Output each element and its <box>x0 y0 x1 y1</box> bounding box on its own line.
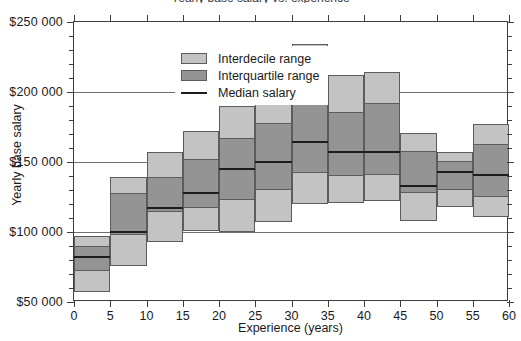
x-tick-top <box>110 300 111 307</box>
median-line <box>255 161 291 163</box>
legend-item-interdecile: Interdecile range <box>181 51 319 66</box>
x-tick-top <box>437 300 438 307</box>
x-tick <box>437 15 438 22</box>
y-tick-minor-right <box>507 190 512 191</box>
y-tick-major <box>67 162 74 163</box>
x-tick <box>473 15 474 22</box>
median-line <box>328 151 364 153</box>
median-line <box>110 231 146 233</box>
x-tick <box>147 15 148 22</box>
x-tick-top <box>400 300 401 307</box>
x-tick <box>110 15 111 22</box>
y-tick-minor-right <box>507 134 512 135</box>
x-tick-top <box>473 300 474 307</box>
median-line <box>183 192 219 194</box>
interquartile-box <box>364 103 400 174</box>
y-tick-minor-right <box>507 106 512 107</box>
interquartile-box <box>473 144 509 197</box>
y-tick-minor <box>69 64 74 65</box>
x-tick-top <box>292 300 293 307</box>
x-tick <box>292 15 293 22</box>
y-tick-minor <box>69 246 74 247</box>
y-tick-minor-right <box>507 176 512 177</box>
median-line <box>74 256 110 258</box>
y-tick-minor-right <box>507 36 512 37</box>
x-tick-top <box>147 300 148 307</box>
y-tick-label: $250 000 <box>9 15 63 29</box>
y-tick-minor <box>69 50 74 51</box>
interquartile-box <box>74 246 110 271</box>
legend-swatch-median <box>181 87 207 98</box>
bar-group <box>328 22 364 300</box>
bar-group <box>473 22 509 300</box>
x-tick <box>328 15 329 22</box>
x-tick <box>74 15 75 22</box>
interquartile-box <box>328 112 364 176</box>
y-tick-minor <box>69 106 74 107</box>
legend-label-interdecile: Interdecile range <box>218 52 311 66</box>
x-tick-top <box>255 300 256 307</box>
y-tick-minor-right <box>507 260 512 261</box>
y-tick-minor <box>69 190 74 191</box>
y-tick-minor <box>69 148 74 149</box>
y-tick-label: $50 000 <box>16 295 63 309</box>
x-tick-label: 0 <box>71 309 78 323</box>
x-tick-label: 35 <box>321 309 335 323</box>
x-axis-title: Experience (years) <box>73 321 508 335</box>
y-tick-minor <box>69 218 74 219</box>
interquartile-box <box>292 102 328 173</box>
x-tick-label: 15 <box>176 309 190 323</box>
median-line <box>219 168 255 170</box>
x-tick <box>400 15 401 22</box>
y-tick-major-right <box>507 22 514 23</box>
x-tick <box>509 15 510 22</box>
chart-title: Yearly base salary vs. experience <box>0 0 521 3</box>
bar-group <box>110 22 146 300</box>
x-tick-label: 45 <box>393 309 407 323</box>
x-tick-label: 20 <box>212 309 226 323</box>
interquartile-box <box>183 159 219 208</box>
y-tick-minor-right <box>507 64 512 65</box>
x-tick-top <box>328 300 329 307</box>
y-tick-minor-right <box>507 148 512 149</box>
y-tick-minor <box>69 288 74 289</box>
x-tick-label: 30 <box>285 309 299 323</box>
y-tick-major <box>67 92 74 93</box>
salary-experience-chart: Yearly base salary vs. experience Yearly… <box>0 0 521 341</box>
y-tick-minor <box>69 204 74 205</box>
x-tick-label: 60 <box>502 309 516 323</box>
median-line <box>147 207 183 209</box>
x-tick <box>364 15 365 22</box>
y-tick-major-right <box>507 162 514 163</box>
x-tick-top <box>183 300 184 307</box>
y-tick-minor-right <box>507 120 512 121</box>
y-tick-label: $100 000 <box>9 225 63 239</box>
legend-item-interquartile: Interquartile range <box>181 68 319 83</box>
y-tick-minor <box>69 134 74 135</box>
bar-group <box>437 22 473 300</box>
y-tick-minor-right <box>507 246 512 247</box>
y-tick-label: $150 000 <box>9 155 63 169</box>
x-tick-top <box>509 300 510 307</box>
bar-group <box>74 22 110 300</box>
bar-group <box>364 22 400 300</box>
interquartile-box <box>255 123 291 190</box>
y-tick-major <box>67 22 74 23</box>
y-tick-major <box>67 232 74 233</box>
y-tick-minor <box>69 78 74 79</box>
legend-swatch-interquartile <box>181 70 207 81</box>
y-tick-minor <box>69 36 74 37</box>
legend-swatch-interdecile <box>181 53 207 64</box>
x-tick-top <box>219 300 220 307</box>
x-tick-label: 25 <box>248 309 262 323</box>
y-tick-minor-right <box>507 274 512 275</box>
y-tick-minor <box>69 274 74 275</box>
y-tick-minor-right <box>507 50 512 51</box>
y-tick-minor-right <box>507 218 512 219</box>
x-tick <box>255 15 256 22</box>
x-tick <box>183 15 184 22</box>
y-tick-minor <box>69 260 74 261</box>
y-tick-minor-right <box>507 78 512 79</box>
legend-label-median: Median salary <box>218 86 296 100</box>
x-tick-label: 50 <box>430 309 444 323</box>
